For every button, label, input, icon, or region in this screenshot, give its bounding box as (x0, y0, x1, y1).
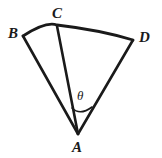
angle-label-theta: θ (77, 89, 83, 102)
arc-bd (23, 24, 133, 40)
vertex-label-c: C (52, 6, 62, 21)
vertex-label-a: A (72, 140, 82, 155)
vertex-label-b: B (8, 26, 18, 41)
vertex-label-d: D (139, 30, 150, 45)
sector-figure: B C D A θ (0, 0, 162, 158)
sector-drawing (0, 0, 162, 158)
angle-arc-theta (72, 107, 92, 112)
segment-ad (78, 40, 133, 134)
